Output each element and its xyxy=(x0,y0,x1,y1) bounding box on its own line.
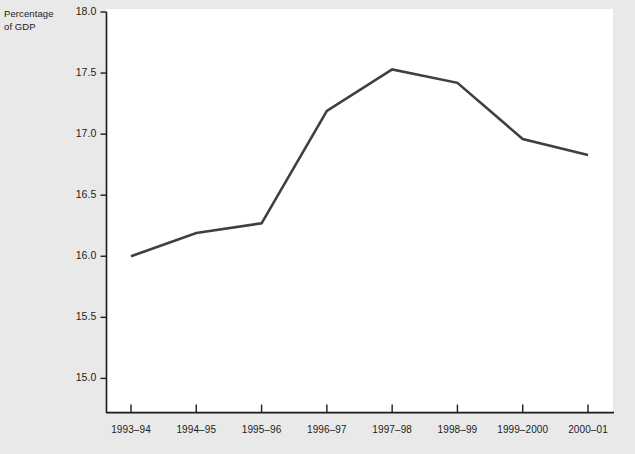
x-axis-ticks xyxy=(131,405,588,413)
chart-figure: Percentage of GDP 15.015.516.016.517.017… xyxy=(0,0,635,454)
y-axis-tick-label: 17.5 xyxy=(61,66,97,78)
y-axis xyxy=(101,12,107,413)
data-series-group xyxy=(131,69,588,256)
x-axis-tick-label: 1993–94 xyxy=(111,424,151,435)
y-axis-tick-label: 16.0 xyxy=(61,249,97,261)
x-axis-tick-label: 1996–97 xyxy=(307,424,347,435)
y-axis-tick-label: 16.5 xyxy=(61,188,97,200)
x-axis-tick-label: 1995–96 xyxy=(242,424,282,435)
y-axis-tick-label: 15.5 xyxy=(61,310,97,322)
y-axis-tick-label: 18.0 xyxy=(61,5,97,17)
x-axis xyxy=(106,405,614,413)
x-axis-tick-label: 2000–01 xyxy=(568,424,608,435)
data-line-percentage-of-gdp xyxy=(131,69,588,256)
y-axis-tick-label: 17.0 xyxy=(61,127,97,139)
y-axis-ticks xyxy=(101,12,107,378)
x-axis-tick-label: 1997–98 xyxy=(372,424,412,435)
x-axis-tick-label: 1998–99 xyxy=(438,424,478,435)
x-axis-tick-label: 1999–2000 xyxy=(497,424,548,435)
x-axis-tick-label: 1994–95 xyxy=(176,424,216,435)
y-axis-tick-label: 15.0 xyxy=(61,371,97,383)
